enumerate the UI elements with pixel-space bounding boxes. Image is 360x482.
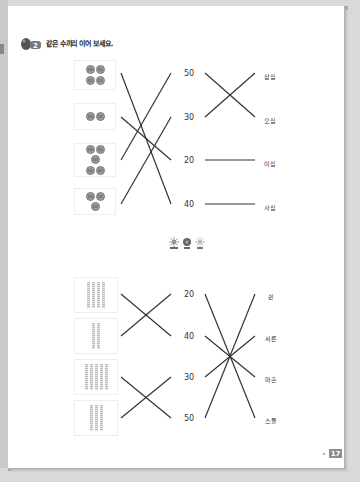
top-word-3: 이십 xyxy=(264,159,276,168)
top-word-2: 오십 xyxy=(264,116,276,125)
bottom-number-4: 50 xyxy=(184,414,194,423)
three-flowers-icon xyxy=(169,237,205,249)
page-number-dot xyxy=(323,453,325,455)
bottom-word-1: 쉰 xyxy=(268,292,274,301)
top-word-4: 사십 xyxy=(264,203,276,212)
top-number-3: 20 xyxy=(184,156,194,165)
top-number-4: 40 xyxy=(184,200,194,209)
top-word-1: 삼십 xyxy=(264,72,276,81)
bottom-number-1: 20 xyxy=(184,290,194,299)
bottom-word-4: 스물 xyxy=(265,416,277,425)
page-number: 17 xyxy=(329,449,342,458)
bottom-number-3: 30 xyxy=(184,373,194,382)
top-number-2: 30 xyxy=(184,113,194,122)
top-number-1: 50 xyxy=(184,69,194,78)
bottom-word-2: 서른 xyxy=(265,334,277,343)
bottom-word-3: 마흔 xyxy=(265,375,277,384)
bottom-number-2: 40 xyxy=(184,332,194,341)
